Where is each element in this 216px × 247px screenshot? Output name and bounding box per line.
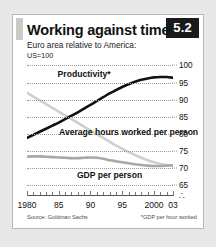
y-tick-dash [172, 133, 177, 134]
y-tick-dash [172, 116, 177, 117]
x-tick-minor [116, 192, 117, 195]
x-tick-major [27, 191, 28, 196]
x-tick-minor [65, 192, 66, 195]
x-tick-label: 2000 [144, 200, 163, 210]
x-tick-minor [167, 192, 168, 195]
x-tick-minor [33, 192, 34, 195]
x-tick-major [122, 191, 123, 196]
y-tick-dash [172, 65, 177, 66]
x-tick-minor [148, 192, 149, 195]
x-tick-major [59, 191, 60, 196]
x-tick-minor [40, 192, 41, 195]
chart-subtitle-units: US=100 [27, 51, 53, 60]
x-tick-minor [103, 192, 104, 195]
x-tick-label: 90 [86, 200, 95, 210]
x-axis-labels: 1980859095200003 [13, 200, 205, 214]
gridline [27, 151, 173, 152]
series-annotation: Productivity* [58, 69, 111, 79]
y-tick-label: 70 [179, 164, 188, 173]
x-tick-minor [84, 192, 85, 195]
y-tick-dash [172, 168, 177, 169]
corner-tab-decoration [16, 18, 23, 40]
y-tick-dash [172, 185, 177, 186]
footnote: *GDP per hour worked [141, 214, 197, 220]
x-tick-label: 03 [168, 200, 177, 210]
x-tick-label: 1980 [18, 200, 37, 210]
series-annotation-line: Productivity* [58, 69, 111, 79]
y-tick-dash [172, 82, 177, 83]
y-axis: 10095908580757065∴ [175, 62, 205, 202]
x-tick-major [90, 191, 91, 196]
x-tick-minor [78, 192, 79, 195]
x-tick-label: 85 [54, 200, 63, 210]
x-tick-major [173, 191, 174, 196]
y-tick-label: 85 [179, 112, 188, 121]
series-annotation: GDP per person [77, 170, 142, 180]
y-tick-label: 95 [179, 78, 188, 87]
y-tick-label: 80 [179, 129, 188, 138]
source-note: Source: Goldman Sachs [27, 214, 88, 220]
y-tick-label: 90 [179, 95, 188, 104]
figure-number-badge: 5.2 [166, 18, 199, 38]
x-tick-minor [141, 192, 142, 195]
gridline [27, 168, 173, 169]
x-tick-minor [160, 192, 161, 195]
chart-panel: 5.2 Working against time Euro area relat… [12, 14, 204, 229]
x-tick-major [154, 191, 155, 196]
x-tick-minor [71, 192, 72, 195]
x-axis-line [27, 195, 173, 196]
y-tick-dash [172, 150, 177, 151]
gridline [27, 65, 173, 66]
y-tick-label: 65 [179, 181, 188, 190]
gridline [27, 100, 173, 101]
y-tick-label: 100 [179, 61, 193, 70]
x-tick-minor [129, 192, 130, 195]
gridline [27, 185, 173, 186]
y-tick-label: 75 [179, 146, 188, 155]
x-tick-minor [97, 192, 98, 195]
x-tick-minor [110, 192, 111, 195]
series-annotation-line: GDP per person [77, 170, 142, 180]
x-tick-label: 95 [117, 200, 126, 210]
y-tick-dash [172, 99, 177, 100]
chart-title: Working against time [27, 22, 169, 38]
chart-subtitle: Euro area relative to America: [27, 40, 136, 50]
x-tick-minor [52, 192, 53, 195]
x-tick-minor [46, 192, 47, 195]
plot-area: Productivity*Average hours worked per pe… [27, 62, 173, 192]
gridline [27, 83, 173, 84]
x-tick-minor [135, 192, 136, 195]
gridline [27, 117, 173, 118]
